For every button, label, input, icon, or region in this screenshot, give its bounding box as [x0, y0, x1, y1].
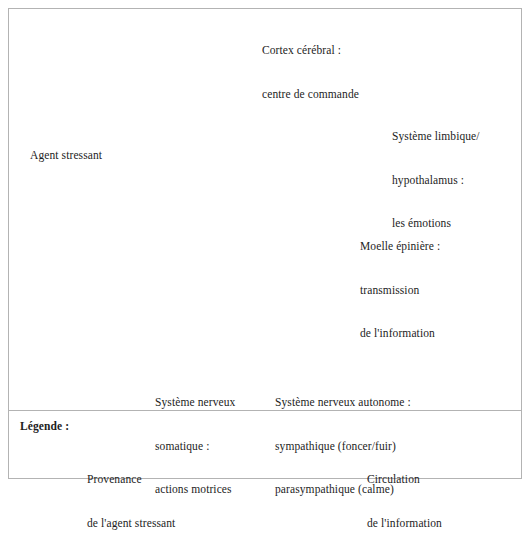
spinal-cord-label-line3: de l'information [360, 326, 440, 341]
limbic-label-line1: Système limbique/ [392, 129, 480, 144]
cortex-label-line2: centre de commande [262, 87, 359, 102]
autonomic-label-line1: Système nerveux autonome : [275, 395, 411, 410]
legend-entry-provenance: Provenance de l'agent stressant [87, 443, 175, 534]
legend-circulation-line2: de l'information [367, 516, 442, 531]
legend-border [8, 410, 522, 479]
legend-title: Légende : [20, 419, 69, 434]
legend-provenance-line2: de l'agent stressant [87, 516, 175, 531]
cortex-label-line1: Cortex cérébral : [262, 43, 359, 58]
cortex-label: Cortex cérébral : centre de commande [262, 14, 359, 130]
spinal-cord-label-line1: Moelle épinière : [360, 239, 440, 254]
limbic-label-line2: hypothalamus : [392, 173, 480, 188]
legend-entry-circulation: Circulation de l'information [367, 443, 442, 534]
stressor-label: Agent stressant [30, 119, 102, 192]
spinal-cord-label-line2: transmission [360, 283, 440, 298]
somatic-label-line1: Système nerveux [155, 395, 235, 410]
legend-provenance-line1: Provenance [87, 472, 175, 487]
legend-circulation-line1: Circulation [367, 472, 442, 487]
spinal-cord-label: Moelle épinière : transmission de l'info… [360, 210, 440, 370]
stressor-label-line1: Agent stressant [30, 148, 102, 163]
